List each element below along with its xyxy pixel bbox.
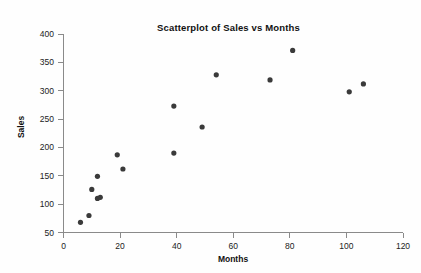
data-point: [171, 151, 176, 156]
data-point: [347, 89, 352, 94]
y-tick-label: 200: [40, 142, 54, 152]
data-points: [78, 48, 366, 225]
data-point: [290, 48, 295, 53]
data-point: [200, 124, 205, 129]
scatterplot-chart: Scatterplot of Sales vs Months Sales Mon…: [0, 0, 421, 273]
y-tick-label: 300: [40, 86, 54, 96]
y-tick-label: 250: [40, 114, 54, 124]
x-tick-label: 20: [115, 241, 125, 251]
data-point: [89, 187, 94, 192]
axes: [64, 34, 404, 233]
x-tick-label: 0: [61, 241, 66, 251]
data-point: [120, 166, 125, 171]
x-tick-label: 100: [339, 241, 353, 251]
y-tick-label: 400: [40, 29, 54, 39]
data-point: [361, 81, 366, 86]
data-point: [98, 195, 103, 200]
data-point: [95, 174, 100, 179]
y-tick-label: 100: [40, 199, 54, 209]
x-tick-label: 80: [285, 241, 295, 251]
y-tick-label: 150: [40, 171, 54, 181]
plot-area: 50100150200250300350400 020406080100120: [0, 0, 421, 273]
data-point: [267, 77, 272, 82]
x-tick-label: 60: [229, 241, 239, 251]
x-axis-ticks: 020406080100120: [61, 233, 410, 252]
x-tick-label: 120: [396, 241, 410, 251]
data-point: [86, 213, 91, 218]
data-point: [78, 220, 83, 225]
y-tick-label: 50: [45, 228, 55, 238]
y-tick-label: 350: [40, 57, 54, 67]
data-point: [115, 152, 120, 157]
data-point: [214, 72, 219, 77]
x-tick-label: 40: [172, 241, 182, 251]
y-axis-ticks: 50100150200250300350400: [40, 29, 64, 238]
data-point: [171, 103, 176, 108]
